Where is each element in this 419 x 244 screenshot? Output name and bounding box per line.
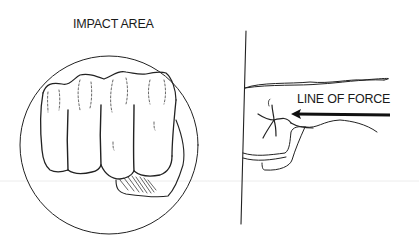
line-of-force-label: LINE OF FORCE [297, 92, 390, 106]
line-of-force-figure [241, 31, 389, 224]
knuckle-marks [258, 105, 313, 138]
force-arrow [291, 109, 390, 119]
impact-area-label: IMPACT AREA [73, 17, 154, 31]
illustration [0, 0, 419, 244]
finger-creases [48, 78, 166, 150]
wall-line [241, 31, 246, 224]
impact-area-figure [20, 56, 198, 234]
thumb-hatching [120, 176, 156, 193]
impact-circle [20, 56, 198, 234]
